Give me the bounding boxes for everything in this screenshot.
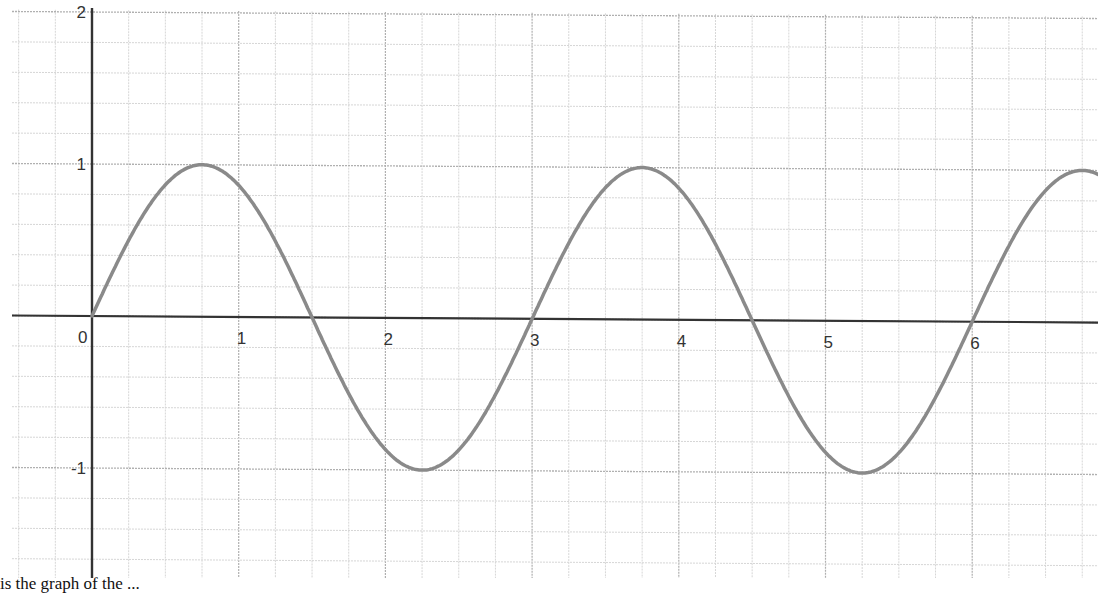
y-tick-label: 1	[77, 155, 86, 174]
grid-lines	[12, 10, 1098, 585]
tick-labels: 012345621-1	[71, 3, 980, 478]
x-tick-label: 5	[824, 333, 833, 352]
x-tick-label: 4	[677, 332, 686, 351]
y-tick-label: -1	[71, 459, 86, 478]
y-tick-label: 2	[77, 3, 86, 22]
x-tick-label: 6	[970, 334, 979, 353]
caption-text: is the graph of the ...	[0, 574, 140, 594]
x-tick-label: 0	[78, 328, 87, 347]
x-tick-label: 3	[530, 331, 539, 350]
x-tick-label: 2	[383, 330, 392, 349]
x-tick-label: 1	[237, 329, 246, 348]
